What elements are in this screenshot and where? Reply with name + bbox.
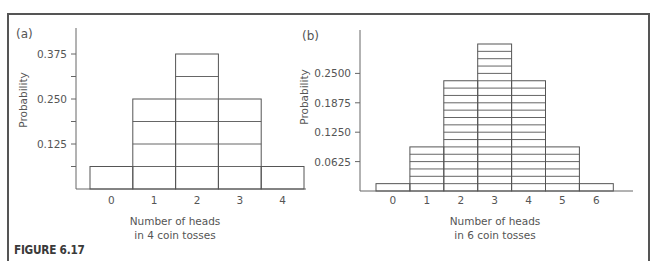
x-axis-title-line: Number of heads (450, 215, 541, 227)
y-tick-label: 0.1250 (314, 126, 351, 138)
x-axis-title-line: in 6 coin tosses (454, 229, 535, 241)
bar-6 (579, 184, 613, 191)
x-tick-label: 5 (559, 194, 566, 206)
bar-0 (376, 184, 410, 191)
bar-4 (512, 81, 546, 191)
y-tick-label: 0.1875 (314, 97, 351, 109)
x-tick-label: 2 (457, 194, 464, 206)
y-tick-label: 0.2500 (314, 67, 351, 79)
figure-caption: FIGURE 6.17 (14, 243, 85, 257)
y-tick-label: 0.0625 (314, 156, 351, 168)
x-tick-label: 0 (390, 194, 397, 206)
x-tick-label: 3 (491, 194, 498, 206)
x-tick-label: 4 (525, 194, 532, 206)
x-tick-label: 1 (424, 194, 431, 206)
y-axis-title: Probability (298, 69, 310, 125)
figure: (a)0.1250.2500.375Probability01234Number… (0, 0, 655, 261)
chart-b-plot: (b)0.06250.12500.18750.2500Probability01… (298, 29, 633, 241)
chart-b-coin-tosses-6: (b)0.06250.12500.18750.2500Probability01… (0, 0, 655, 261)
bar-3 (478, 44, 512, 191)
bar-2 (444, 81, 478, 191)
panel-label: (b) (302, 29, 319, 43)
x-tick-label: 6 (593, 194, 600, 206)
bar-1 (410, 147, 444, 191)
bar-5 (546, 147, 580, 191)
